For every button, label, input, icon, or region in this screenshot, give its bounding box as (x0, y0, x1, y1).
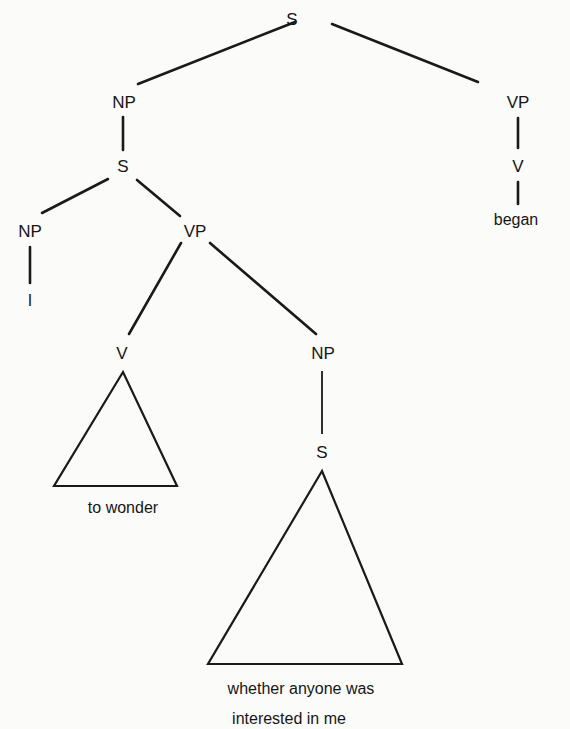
node-root-s: S (286, 10, 297, 29)
edge-s-np (138, 22, 295, 84)
node-np-object: NP (311, 344, 335, 363)
triangle-to-wonder (54, 372, 177, 486)
edge-s-vp-embedded (137, 180, 180, 216)
node-vp-main: VP (507, 93, 530, 112)
node-v-main: V (512, 157, 524, 176)
edge-vp-np-object (210, 243, 316, 334)
node-vp-embedded: VP (184, 222, 207, 241)
word-clause-line2: interested in me (232, 710, 346, 727)
triangle-clause (208, 471, 402, 664)
tree-edges (30, 22, 518, 434)
word-to-wonder: to wonder (88, 499, 159, 516)
node-v-embedded: V (116, 344, 128, 363)
edge-s-np-i (42, 179, 108, 213)
word-began: began (494, 211, 539, 228)
edge-vp-v-embedded (129, 243, 181, 334)
word-i: I (28, 292, 32, 309)
word-clause-line1: whether anyone was (227, 680, 375, 697)
node-np-i: NP (18, 222, 42, 241)
node-s-clause: S (316, 443, 327, 462)
edge-s-vp (332, 24, 478, 82)
node-s-embedded: S (117, 157, 128, 176)
syntax-tree-diagram: S NP VP V began S NP I VP V to wonder NP… (0, 0, 570, 729)
node-np-subject: NP (112, 93, 136, 112)
